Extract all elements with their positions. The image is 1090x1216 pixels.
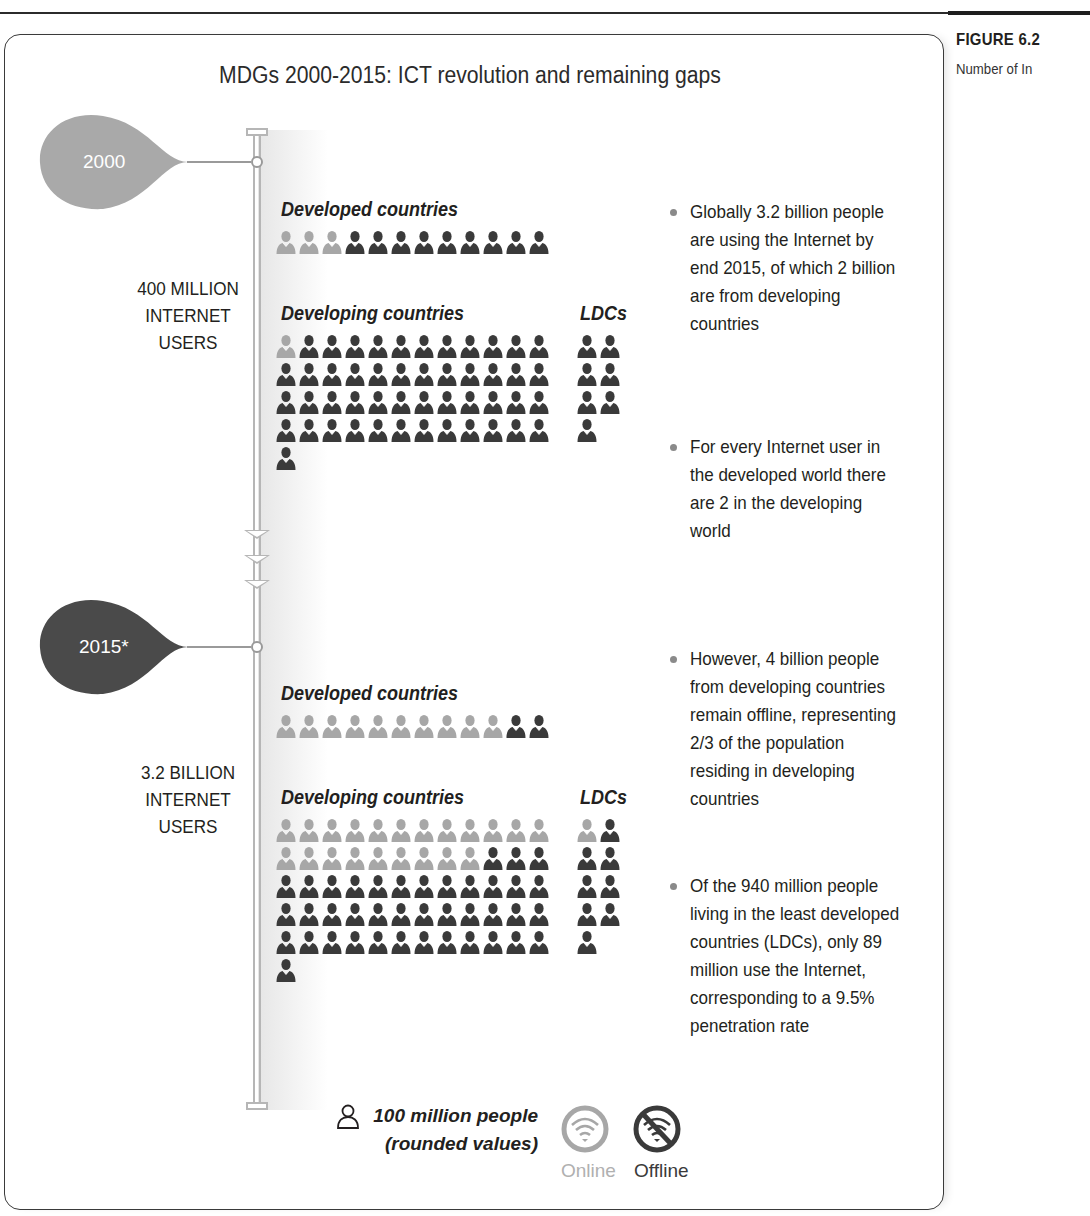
person-icon bbox=[577, 818, 597, 842]
person-icon bbox=[529, 334, 549, 358]
person-icon bbox=[322, 390, 342, 414]
person-icon bbox=[506, 334, 526, 358]
connector-2015 bbox=[187, 646, 251, 648]
person-icon bbox=[276, 902, 296, 926]
person-icon bbox=[276, 958, 296, 982]
person-icon bbox=[322, 874, 342, 898]
person-icon bbox=[437, 846, 457, 870]
icons-developing-2000 bbox=[276, 334, 549, 470]
person-icon bbox=[483, 818, 503, 842]
person-icon bbox=[437, 390, 457, 414]
person-icon bbox=[322, 334, 342, 358]
person-icon bbox=[276, 230, 296, 254]
person-icon bbox=[437, 418, 457, 442]
person-icon bbox=[529, 390, 549, 414]
person-icon bbox=[276, 874, 296, 898]
person-icon bbox=[506, 362, 526, 386]
person-icon bbox=[600, 334, 620, 358]
person-icon bbox=[276, 362, 296, 386]
legend-offline-label: Offline bbox=[634, 1160, 689, 1182]
icons-ldc-2015 bbox=[577, 818, 620, 954]
person-icon bbox=[322, 230, 342, 254]
timeline-node-2015 bbox=[251, 641, 263, 653]
person-icon bbox=[600, 818, 620, 842]
legend-unit-note: 100 million people (rounded values) bbox=[338, 1102, 538, 1158]
group-label-ldc-2000: LDCs bbox=[580, 302, 627, 325]
person-icon bbox=[276, 930, 296, 954]
person-icon bbox=[299, 362, 319, 386]
person-icon bbox=[322, 714, 342, 738]
group-label-developed-2015: Developed countries bbox=[281, 682, 458, 705]
person-icon bbox=[483, 230, 503, 254]
person-icon bbox=[391, 930, 411, 954]
person-icon bbox=[437, 874, 457, 898]
group-label-developing-2015: Developing countries bbox=[281, 786, 464, 809]
person-icon bbox=[600, 390, 620, 414]
person-icon bbox=[345, 902, 365, 926]
person-icon bbox=[391, 818, 411, 842]
person-icon bbox=[577, 846, 597, 870]
person-icon bbox=[368, 362, 388, 386]
person-icon bbox=[577, 362, 597, 386]
bullet-item: For every Internet user in the developed… bbox=[668, 433, 918, 545]
person-icon bbox=[345, 874, 365, 898]
person-icon bbox=[577, 418, 597, 442]
timeline-break-chevron bbox=[244, 580, 270, 589]
users-label-2000: 400 MILLION INTERNET USERS bbox=[116, 275, 260, 356]
chart-title: MDGs 2000-2015: ICT revolution and remai… bbox=[38, 62, 903, 89]
person-icon bbox=[322, 362, 342, 386]
person-icon bbox=[483, 846, 503, 870]
year-label-2000: 2000 bbox=[83, 151, 125, 173]
person-icon bbox=[345, 334, 365, 358]
top-rule bbox=[0, 12, 950, 14]
person-icon bbox=[368, 874, 388, 898]
users-label-2015: 3.2 BILLION INTERNET USERS bbox=[116, 759, 260, 840]
person-icon bbox=[391, 230, 411, 254]
person-icon bbox=[529, 714, 549, 738]
person-icon bbox=[460, 818, 480, 842]
person-icon bbox=[391, 714, 411, 738]
person-icon bbox=[322, 930, 342, 954]
person-icon bbox=[529, 930, 549, 954]
person-icon bbox=[483, 418, 503, 442]
icons-developed-2000 bbox=[276, 230, 549, 254]
person-icon bbox=[368, 334, 388, 358]
person-icon bbox=[276, 418, 296, 442]
person-icon bbox=[506, 930, 526, 954]
person-icon bbox=[276, 714, 296, 738]
person-icon bbox=[460, 846, 480, 870]
person-icon bbox=[345, 930, 365, 954]
person-icon bbox=[460, 334, 480, 358]
person-icon bbox=[299, 818, 319, 842]
person-icon bbox=[460, 902, 480, 926]
person-icon bbox=[529, 418, 549, 442]
person-icon bbox=[600, 362, 620, 386]
person-icon bbox=[483, 902, 503, 926]
person-icon bbox=[368, 390, 388, 414]
icons-developed-2015 bbox=[276, 714, 549, 738]
legend-online-label: Online bbox=[561, 1160, 616, 1182]
person-icon bbox=[460, 714, 480, 738]
person-icon bbox=[437, 714, 457, 738]
person-icon bbox=[414, 362, 434, 386]
person-icon bbox=[276, 818, 296, 842]
person-icon bbox=[345, 714, 365, 738]
person-icon bbox=[322, 418, 342, 442]
person-icon bbox=[345, 390, 365, 414]
person-icon bbox=[299, 930, 319, 954]
timeline-bottom-cap bbox=[246, 1102, 268, 1110]
person-icon bbox=[276, 446, 296, 470]
person-icon bbox=[600, 874, 620, 898]
group-label-developing-2000: Developing countries bbox=[281, 302, 464, 325]
person-icon bbox=[322, 818, 342, 842]
person-icon bbox=[276, 390, 296, 414]
bullet-dot-icon bbox=[670, 209, 677, 216]
person-icon bbox=[506, 902, 526, 926]
person-icon bbox=[345, 846, 365, 870]
person-icon bbox=[299, 902, 319, 926]
person-icon bbox=[414, 390, 434, 414]
person-icon bbox=[368, 230, 388, 254]
person-icon bbox=[529, 874, 549, 898]
person-icon bbox=[414, 230, 434, 254]
person-icon bbox=[460, 418, 480, 442]
